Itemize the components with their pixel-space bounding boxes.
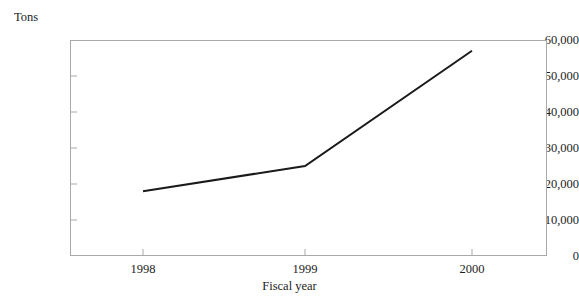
plot-area [70, 40, 547, 256]
x-axis-tick-label: 1999 [293, 263, 318, 276]
y-axis-title: Tons [14, 11, 38, 24]
x-axis-tick-label: 2000 [460, 263, 485, 276]
x-axis-tick-label: 1998 [131, 263, 156, 276]
chart-page: Tons 010,00020,00030,00040,00050,00060,0… [0, 0, 579, 303]
x-axis-title: Fiscal year [0, 280, 579, 293]
